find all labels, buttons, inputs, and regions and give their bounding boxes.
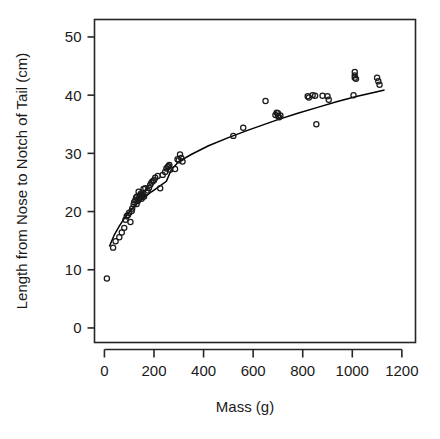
x-tick-label: 800 <box>290 362 315 379</box>
y-axis-label: Length from Nose to Notch of Tail (cm) <box>13 53 30 310</box>
chart-figure: 01020304050 020040060080010001200 Mass (… <box>0 0 440 439</box>
y-tick-label: 10 <box>65 261 82 278</box>
x-tick-label: 0 <box>100 362 108 379</box>
scatter-plot-svg: 01020304050 020040060080010001200 Mass (… <box>0 0 440 439</box>
y-tick-label: 40 <box>65 87 82 104</box>
y-tick-label: 30 <box>65 145 82 162</box>
x-tick-label: 200 <box>141 362 166 379</box>
y-tick-label: 50 <box>65 28 82 45</box>
y-tick-label: 0 <box>73 319 81 336</box>
x-tick-label: 400 <box>191 362 216 379</box>
y-tick-label: 20 <box>65 203 82 220</box>
x-axis-label: Mass (g) <box>216 398 274 415</box>
x-tick-label: 1000 <box>336 362 369 379</box>
x-tick-label: 600 <box>241 362 266 379</box>
x-tick-label: 1200 <box>385 362 418 379</box>
